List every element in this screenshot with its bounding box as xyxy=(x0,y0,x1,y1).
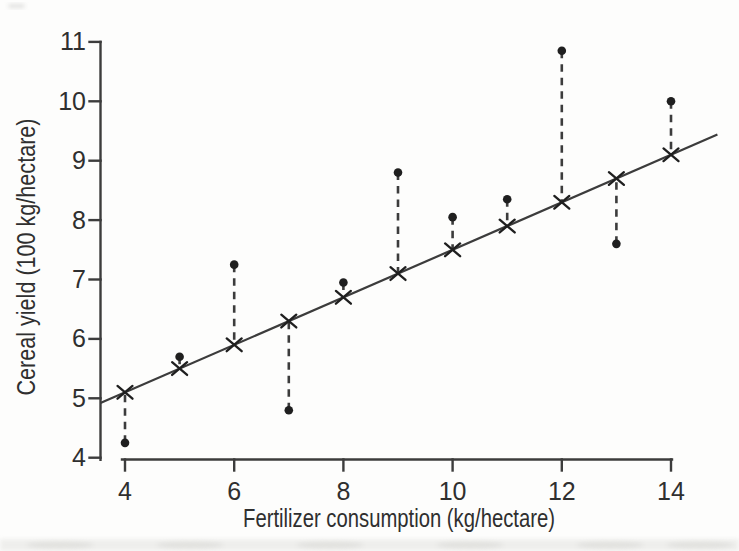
y-tick-label: 8 xyxy=(72,206,86,234)
scan-artifact xyxy=(666,542,734,549)
observed-point xyxy=(175,352,184,361)
scan-artifact xyxy=(8,4,25,8)
regression-residuals-figure: 4567891011468101214Fertilizer consumptio… xyxy=(0,0,739,551)
observed-point xyxy=(285,406,294,415)
scan-artifact xyxy=(156,542,224,549)
scan-artifact xyxy=(576,542,644,549)
chart-canvas: 4567891011468101214Fertilizer consumptio… xyxy=(0,0,739,551)
scan-artifact xyxy=(296,542,364,549)
y-tick-label: 9 xyxy=(72,146,86,174)
y-tick-label: 4 xyxy=(72,443,86,471)
observed-point xyxy=(612,240,621,249)
x-tick-label: 6 xyxy=(227,477,241,505)
y-tick-label: 10 xyxy=(58,87,86,115)
observed-point xyxy=(339,278,348,287)
x-tick-label: 8 xyxy=(336,477,350,505)
y-axis-title: Cereal yield (100 kg/hectare) xyxy=(11,119,41,396)
observed-point xyxy=(448,213,457,222)
x-tick-label: 14 xyxy=(657,477,685,505)
x-tick-label: 10 xyxy=(439,477,467,505)
scan-artifact xyxy=(436,542,504,549)
x-tick-label: 4 xyxy=(118,477,132,505)
y-tick-label: 5 xyxy=(72,384,86,412)
observed-point xyxy=(558,47,567,56)
figure-background xyxy=(0,0,739,551)
y-tick-label: 11 xyxy=(60,27,86,55)
x-axis-title: Fertilizer consumption (kg/hectare) xyxy=(243,503,555,533)
scan-artifact xyxy=(26,542,94,549)
y-tick-label: 7 xyxy=(72,265,86,293)
observed-point xyxy=(230,260,239,269)
observed-point xyxy=(667,97,676,106)
y-tick-label: 6 xyxy=(72,324,86,352)
observed-point xyxy=(121,439,130,448)
observed-point xyxy=(503,195,512,204)
observed-point xyxy=(394,168,403,177)
x-tick-label: 12 xyxy=(548,477,576,505)
